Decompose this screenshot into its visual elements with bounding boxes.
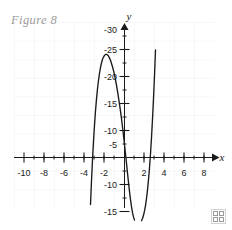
y-tick-label: -25 xyxy=(104,45,117,55)
x-tick-label: -2 xyxy=(100,168,108,178)
x-axis-label: x xyxy=(219,151,225,163)
coordinate-plot: -10 -8 -6 -4 -2 2 4 6 8 x xyxy=(0,0,232,230)
x-tick-label: -8 xyxy=(40,168,48,178)
figure-container: Figure 8 xyxy=(0,0,232,230)
x-tick-label: 2 xyxy=(141,168,146,178)
x-tick-label: 4 xyxy=(161,168,166,178)
x-tick-label: -6 xyxy=(60,168,68,178)
y-tick-label: -15 xyxy=(104,99,117,109)
x-tick-label: -4 xyxy=(80,168,88,178)
x-tick-label: 6 xyxy=(181,168,186,178)
y-tick-label: -10 xyxy=(104,180,117,190)
x-tick-label: -10 xyxy=(17,168,30,178)
y-tick-label: -30 xyxy=(104,25,117,35)
y-tick-label: -5 xyxy=(109,140,117,150)
x-axis xyxy=(14,154,220,162)
x-tick-label: 8 xyxy=(201,168,206,178)
y-tick-label: -15 xyxy=(104,207,117,217)
curve-quartic xyxy=(91,50,156,221)
y-tick-label: -10 xyxy=(104,126,117,136)
x-axis-tick-labels: -10 -8 -6 -4 -2 2 4 6 8 xyxy=(17,168,206,178)
grid-logo-watermark xyxy=(211,209,226,224)
y-axis-label: y xyxy=(126,10,132,22)
